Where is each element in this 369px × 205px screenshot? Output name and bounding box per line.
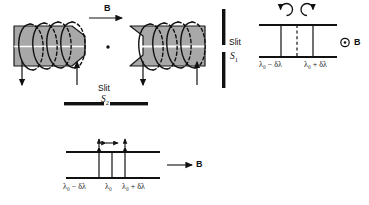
field-label-longitudinal: B — [354, 38, 361, 47]
slit-s2-label: Slit — [98, 84, 110, 93]
electromagnet-pole-left — [14, 26, 85, 66]
cw-circular-arrow — [301, 4, 313, 16]
wavelength-label-minus-top: λ₀ − δλ — [259, 61, 282, 69]
wavelength-label-plus-top: λ₀ + δλ — [304, 61, 327, 69]
slit-s2-name: S2 — [101, 95, 109, 106]
field-label-main: B — [104, 4, 111, 13]
wavelength-label-center-bottom: λ₀ — [105, 183, 112, 191]
slit-s1-name: S1 — [230, 52, 238, 63]
ccw-circular-arrow — [281, 4, 293, 16]
light-source-dot — [106, 45, 109, 48]
linear-polarization-arrows — [99, 139, 125, 147]
wavelength-label-plus-bottom: λ₀ + δλ — [122, 183, 145, 191]
slit-s1-label: Slit — [229, 38, 241, 47]
transverse-spectrum-panel — [66, 139, 192, 178]
wavelength-label-minus-bottom: λ₀ − δλ — [63, 183, 86, 191]
field-label-transverse: B — [196, 160, 203, 169]
field-out-of-page-icon — [341, 38, 349, 46]
circular-polarization-arrows — [281, 4, 314, 16]
longitudinal-spectrum-panel — [259, 4, 349, 58]
slit-s1-bars — [222, 9, 225, 88]
zeeman-effect-figure — [0, 0, 369, 205]
